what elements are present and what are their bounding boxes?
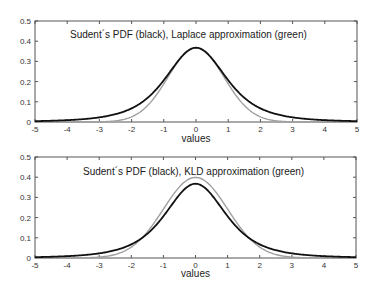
panel-laplace: -5-4-3-2-101234500.10.20.30.40.5 Sudent´… — [20, 17, 360, 144]
y-tick-label: 0.1 — [20, 98, 32, 107]
student-pdf-curve — [35, 184, 356, 257]
x-tick-label: 4 — [323, 125, 328, 134]
x-axis-label: values — [182, 133, 211, 144]
y-tick-label: 0.3 — [20, 57, 32, 66]
x-tick-label: -5 — [31, 261, 39, 270]
x-tick-label: 1 — [226, 125, 231, 134]
panel-kld: -5-4-3-2-101234500.10.20.30.40.5 Sudent´… — [20, 153, 359, 279]
x-tick-label: -2 — [128, 125, 136, 134]
x-tick-label: -3 — [96, 261, 104, 270]
curves — [35, 177, 356, 258]
x-tick-label: -2 — [128, 261, 136, 270]
y-tick-label: 0.2 — [20, 214, 32, 223]
student-pdf-curve — [35, 48, 357, 121]
x-axis-label: values — [181, 268, 210, 279]
y-tick-label: 0.4 — [20, 37, 32, 46]
y-tick-label: 0.2 — [20, 78, 32, 87]
x-tick-label: -4 — [64, 261, 72, 270]
y-tick-label: 0.5 — [20, 153, 32, 162]
y-tick-label: 0.1 — [20, 234, 32, 243]
x-tick-label: 5 — [355, 125, 360, 134]
x-tick-label: 5 — [354, 261, 359, 270]
x-tick-label: -1 — [160, 261, 168, 270]
plot-title: Sudent´s PDF (black), KLD approximation … — [83, 166, 304, 177]
y-tick-label: 0.4 — [20, 173, 32, 182]
curves — [35, 48, 357, 122]
y-tick-label: 0 — [27, 254, 32, 263]
approximation-curve — [35, 48, 357, 122]
y-tick-label: 0 — [27, 118, 32, 127]
x-tick-label: 3 — [290, 125, 295, 134]
y-tick-label: 0.3 — [20, 193, 32, 202]
plot-title: Sudent´s PDF (black), Laplace approximat… — [70, 29, 307, 40]
x-tick-label: -1 — [160, 125, 168, 134]
x-tick-label: 3 — [290, 261, 295, 270]
figure: -5-4-3-2-101234500.10.20.30.40.5 Sudent´… — [0, 0, 375, 293]
approximation-curve — [35, 177, 356, 258]
x-tick-label: -4 — [64, 125, 72, 134]
x-tick-label: 2 — [258, 125, 263, 134]
x-tick-label: -3 — [96, 125, 104, 134]
x-tick-label: -5 — [31, 125, 39, 134]
y-tick-label: 0.5 — [20, 17, 32, 26]
x-tick-label: 1 — [225, 261, 230, 270]
x-tick-label: 2 — [257, 261, 262, 270]
x-tick-label: 4 — [322, 261, 327, 270]
